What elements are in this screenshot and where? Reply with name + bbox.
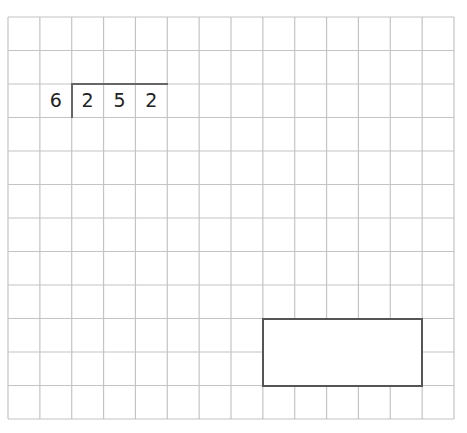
- dividend-digit-3: 2: [135, 84, 167, 118]
- division-bracket-horizontal: [71, 83, 169, 85]
- division-bracket-vertical: [71, 83, 73, 118]
- answer-box[interactable]: [262, 318, 423, 387]
- dividend-digit-2: 5: [104, 84, 136, 118]
- divisor-digit: 6: [40, 84, 72, 118]
- dividend-digit-1: 2: [72, 84, 104, 118]
